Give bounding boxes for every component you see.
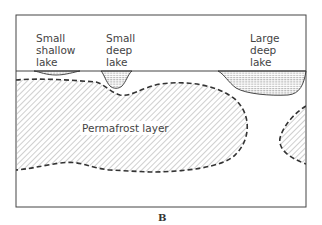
permafrost-label: Permafrost layer: [82, 122, 169, 134]
permafrost-lakes-diagram: Small shallow lake Small deep lake Large…: [0, 0, 322, 225]
panel-label: B: [158, 212, 166, 223]
